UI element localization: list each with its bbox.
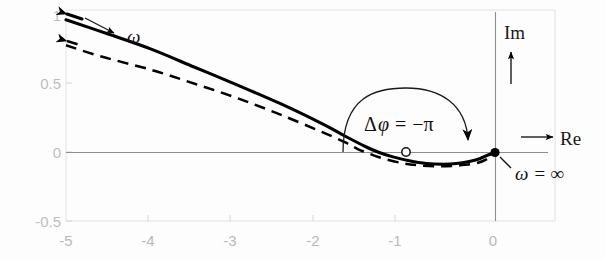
xtick-label-minus-5: -5 xyxy=(59,232,72,249)
solid-start-arrow xyxy=(67,14,82,19)
xtick-label-minus-3: -3 xyxy=(223,232,236,249)
phase-delta-symbol: Δ xyxy=(364,113,377,135)
xtick-label-minus-4: -4 xyxy=(141,232,154,249)
ytick-label-0-5: 0.5 xyxy=(40,75,61,92)
imaginary-axis-label: Im xyxy=(504,22,525,43)
phase-phi-symbol: φ xyxy=(378,113,389,136)
phase-value-symbol: −π xyxy=(412,113,433,135)
real-axis-label: Re xyxy=(560,128,581,149)
critical-point-marker xyxy=(402,148,410,156)
nyquist-plot-canvas: 1 0.5 0 -0.5 -5 -4 -3 -2 -1 0 ω xyxy=(0,0,605,259)
xtick-label-0: 0 xyxy=(489,232,497,249)
dashed-start-arrow xyxy=(67,41,80,45)
ytick-label-1: 1 xyxy=(53,7,61,24)
xtick-label-minus-2: -2 xyxy=(306,232,319,249)
phase-change-label: Δφ=−π xyxy=(364,113,434,136)
omega-label: ω xyxy=(127,26,140,47)
omega-infinity-marker xyxy=(490,148,499,157)
nyquist-figure: 1 0.5 0 -0.5 -5 -4 -3 -2 -1 0 ω xyxy=(0,0,605,259)
xtick-label-minus-1: -1 xyxy=(388,232,401,249)
tick-marks xyxy=(66,15,395,221)
ytick-label-0: 0 xyxy=(53,144,61,161)
omega-infinity-leader xyxy=(500,157,511,168)
omega-infinity-label: ω = ∞ xyxy=(515,163,564,184)
phase-equals-symbol: = xyxy=(395,113,406,135)
ytick-label-minus-0-5: -0.5 xyxy=(35,213,61,230)
